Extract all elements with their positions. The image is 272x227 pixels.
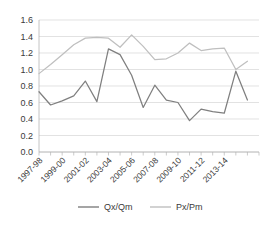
- y-tick-label: 1.2: [20, 48, 33, 58]
- x-tick-label: 2009-10: [154, 155, 183, 184]
- x-axis: [39, 152, 259, 156]
- legend-label-1: Px/Pm: [176, 202, 203, 212]
- x-axis-tick-labels: 1997-981999-002001-022003-042005-062007-…: [15, 155, 230, 184]
- y-axis-tick-labels: 0.00.20.40.60.81.01.21.41.6: [20, 15, 33, 157]
- gridlines-group: [39, 20, 259, 152]
- y-tick-label: 1.4: [20, 32, 33, 42]
- y-tick-label: 0.8: [20, 81, 33, 91]
- y-tick-label: 0.0: [20, 147, 33, 157]
- y-tick-label: 0.2: [20, 131, 33, 141]
- legend-label-0: Qx/Qm: [104, 202, 133, 212]
- series-layer: [39, 35, 247, 121]
- y-tick-label: 0.4: [20, 114, 33, 124]
- y-tick-label: 0.6: [20, 98, 33, 108]
- series-line-pxpm: [39, 35, 247, 74]
- chart-legend: Qx/QmPx/Pm: [78, 202, 203, 212]
- line-chart: 0.00.20.40.60.81.01.21.41.6 1997-981999-…: [0, 0, 272, 227]
- chart-container: 0.00.20.40.60.81.01.21.41.6 1997-981999-…: [0, 0, 272, 227]
- y-tick-label: 1.0: [20, 65, 33, 75]
- series-line-qxqm: [39, 49, 247, 121]
- x-tick-label: 2013-14: [201, 155, 230, 184]
- y-tick-label: 1.6: [20, 15, 33, 25]
